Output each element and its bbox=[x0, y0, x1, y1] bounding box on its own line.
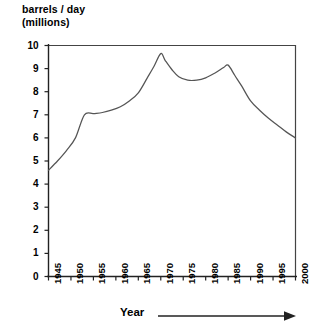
y-axis-tick-label: 9 bbox=[17, 64, 39, 74]
x-axis-caption: Year bbox=[120, 306, 144, 318]
plot-axes bbox=[47, 44, 297, 277]
plot-canvas bbox=[0, 0, 314, 332]
x-axis-tick-label: 1970 bbox=[165, 262, 175, 283]
y-axis-tick-label: 0 bbox=[17, 272, 39, 282]
y-axis-tick-label: 6 bbox=[17, 133, 39, 143]
y-axis-tick-label: 4 bbox=[17, 179, 39, 189]
x-axis-tick-label: 2000 bbox=[300, 262, 310, 283]
y-axis-tick-label: 2 bbox=[17, 225, 39, 235]
y-axis-tick-label: 3 bbox=[17, 202, 39, 212]
y-axis-tick-label: 7 bbox=[17, 110, 39, 120]
y-axis-tick-label: 5 bbox=[17, 156, 39, 166]
x-axis-tick-label: 1960 bbox=[120, 262, 130, 283]
chart-figure: barrels / day(millions) 012345678910 194… bbox=[0, 0, 314, 332]
x-axis-tick-label: 1985 bbox=[232, 262, 242, 283]
y-axis-tick-label: 1 bbox=[17, 248, 39, 258]
x-axis-tick-label: 1950 bbox=[75, 262, 85, 283]
x-axis-tick-label: 1990 bbox=[255, 262, 265, 283]
y-axis-tick-label: 10 bbox=[17, 41, 39, 51]
y-axis-tick-label: 8 bbox=[17, 87, 39, 97]
data-series-line bbox=[49, 53, 296, 170]
x-axis-tick-label: 1995 bbox=[277, 262, 287, 283]
x-axis-tick-label: 1965 bbox=[142, 262, 152, 283]
x-axis-tick-label: 1945 bbox=[53, 262, 63, 283]
x-axis-arrow-icon bbox=[158, 311, 296, 321]
x-axis-tick-label: 1975 bbox=[187, 262, 197, 283]
x-axis-tick-label: 1955 bbox=[97, 262, 107, 283]
x-axis-tick-label: 1980 bbox=[210, 262, 220, 283]
